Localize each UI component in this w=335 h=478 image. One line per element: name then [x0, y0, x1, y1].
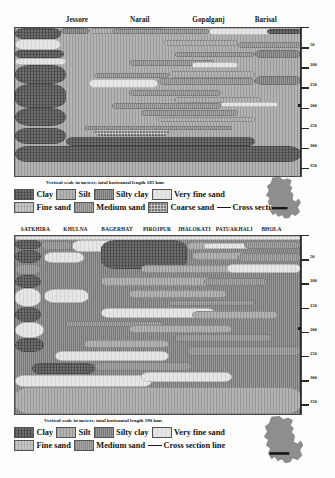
axis-tick	[300, 108, 309, 109]
legend-swatch-msand	[74, 202, 94, 213]
axis-tick	[300, 283, 309, 284]
legend-label: Clay	[37, 190, 54, 199]
site-label-barisal: Barisal	[255, 16, 277, 24]
lithology-unit-vfsand	[192, 62, 238, 68]
cross-section-panel-top: JessoreNarailGopalganjBarisal 5010015020…	[0, 16, 335, 224]
legend-label: Silt	[79, 428, 91, 437]
legend-label: Very fine sand	[174, 428, 225, 437]
axis-tick-label: 300	[310, 142, 317, 147]
lithology-unit-clay	[15, 275, 41, 288]
legend-top: ClaySiltSilty clayVery fine sandFine san…	[14, 188, 282, 214]
axis-tick-label: 300	[310, 375, 317, 380]
lithology-unit-msand	[95, 73, 169, 79]
axis-tick-label: 350	[310, 162, 317, 167]
lithology-unit-vfsand	[89, 79, 158, 88]
site-label-jessore: Jessore	[66, 16, 88, 24]
lithology-unit-vfsand	[141, 372, 233, 383]
panel-caption-top: Vertical scale in meters, total horizont…	[46, 180, 164, 185]
lithology-unit-msand	[84, 126, 233, 131]
lithology-unit-silt	[129, 325, 232, 333]
lithology-unit-clay	[15, 240, 41, 249]
figure-root: JessoreNarailGopalganjBarisal 5010015020…	[0, 0, 335, 478]
legend-row: Fine sandMedium sandCoarse sandCross sec…	[14, 201, 282, 214]
axis-tick-label: 250	[310, 122, 317, 127]
axis-tick	[300, 128, 309, 129]
lithology-unit-vfsand	[55, 351, 169, 361]
lithology-unit-clay	[267, 29, 301, 35]
legend-item-silt: Silt	[56, 189, 91, 200]
site-label-bagerhat: BAGERHAT	[101, 226, 132, 232]
legend-swatch-clay	[14, 189, 34, 200]
lithology-unit-clay	[66, 137, 255, 147]
site-label-patuakhali: PATUAKHALI	[216, 226, 253, 232]
axis-tick	[300, 259, 309, 260]
lithology-unit-msand	[204, 278, 267, 286]
lithology-unit-vfsand	[227, 264, 301, 273]
lithology-unit-clay	[15, 128, 66, 144]
lithology-unit-msand	[175, 334, 272, 342]
legend-row: ClaySiltSilty clayVery fine sand	[14, 188, 282, 201]
legend-swatch-fsand	[14, 202, 34, 213]
legend-label: Cross section line	[164, 441, 226, 450]
legend-swatch-silt	[56, 189, 76, 200]
legend-item-silty-clay: Silty clay	[94, 427, 149, 438]
axis-tick-label: 50	[310, 42, 315, 47]
lithology-unit-vfsand	[221, 102, 278, 108]
legend-label: Very fine sand	[174, 190, 225, 199]
lithology-unit-vfsand	[15, 375, 152, 388]
legend-swatch-siltyclay	[94, 427, 114, 438]
panel-caption-bottom: Vertical scale in meters, total horizont…	[44, 418, 162, 423]
lithology-unit-msand	[129, 90, 221, 96]
lithology-unit-clay	[15, 250, 41, 263]
lithology-unit-clay	[15, 108, 66, 126]
lithology-unit-msand	[158, 78, 255, 84]
legend-label: Coarse sand	[171, 203, 215, 212]
axis-tick	[300, 168, 309, 169]
legend-item-very-fine-sand: Very fine sand	[152, 189, 225, 200]
lithology-unit-msand	[15, 264, 41, 276]
lithology-unit-msand	[238, 42, 301, 48]
axis-tick-label: 200	[310, 326, 317, 331]
site-label-pirojpur: PIROJPUR	[143, 226, 171, 232]
axis-tick-label: 100	[310, 62, 317, 67]
site-label-bhola: BHOLA	[261, 226, 281, 232]
legend-item-silty-clay: Silty clay	[94, 189, 149, 200]
legend-item-cross-section-line: Cross section line	[148, 441, 225, 450]
legend-swatch-clay	[14, 427, 34, 438]
legend-label: Silty clay	[116, 190, 149, 199]
lithology-unit-clay	[15, 65, 66, 84]
legend-label: Silty clay	[116, 428, 149, 437]
axis-tick-label: 200	[310, 102, 317, 107]
axis-tick-label: 150	[310, 302, 317, 307]
lithology-unit-clay	[15, 50, 64, 59]
axis-tick-label: 250	[310, 350, 317, 355]
lithology-unit-vfsand	[209, 28, 272, 35]
legend-label: Clay	[37, 428, 54, 437]
lithology-unit-silt	[129, 290, 226, 298]
site-label-gopalganj: Gopalganj	[192, 16, 224, 24]
axis-depth-marker	[298, 104, 301, 107]
lithology-unit-silt	[15, 387, 301, 414]
legend-label: Fine sand	[37, 203, 71, 212]
legend-swatch-vfsand	[152, 427, 172, 438]
legend-swatch-vfsand	[152, 189, 172, 200]
lithology-unit-clay	[15, 307, 41, 321]
lithology-unit-vfsand	[15, 58, 66, 64]
legend-item-fine-sand: Fine sand	[14, 202, 71, 213]
bangladesh-inset-map-bottom	[256, 414, 308, 468]
legend-item-medium-sand: Medium sand	[74, 440, 145, 451]
lithology-unit-siltyclay	[255, 50, 301, 57]
lithology-unit-vfsand	[44, 252, 84, 263]
legend-swatch-csand	[148, 202, 168, 213]
lithology-unit-silt	[164, 40, 238, 46]
axis-tick	[300, 380, 309, 381]
axis-cap-top	[300, 235, 309, 236]
lithology-unit-siltyclay	[61, 28, 90, 34]
legend-item-silt: Silt	[56, 427, 91, 438]
legend-row: ClaySiltSilty clayVery fine sand	[14, 426, 228, 439]
lithology-unit-msand	[41, 241, 72, 251]
site-label-narail: Narail	[130, 16, 150, 24]
axis-line	[300, 235, 301, 414]
axis-tick	[300, 356, 309, 357]
site-label-khulna: KHULNA	[63, 226, 87, 232]
